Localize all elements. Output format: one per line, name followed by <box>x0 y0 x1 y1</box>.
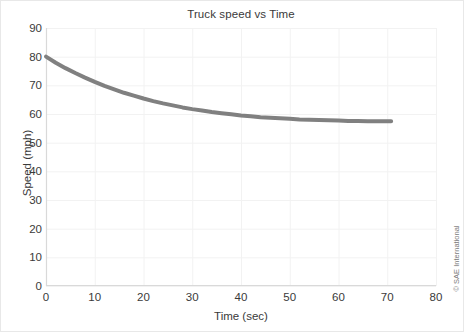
x-tick-label: 0 <box>26 291 66 303</box>
y-tick-label: 70 <box>8 79 42 91</box>
x-tick-label: 10 <box>75 291 115 303</box>
data-series-layer <box>46 28 436 286</box>
x-axis-tick-labels: 01020304050607080 <box>46 291 436 307</box>
y-tick-label: 90 <box>8 22 42 34</box>
x-tick-label: 80 <box>416 291 456 303</box>
chart-figure: Truck speed vs Time 0102030405060708090 … <box>0 0 464 332</box>
x-tick-label: 60 <box>319 291 359 303</box>
x-axis-title: Time (sec) <box>46 310 436 322</box>
x-tick-label: 50 <box>270 291 310 303</box>
y-axis-title: Speed (mph) <box>21 93 33 233</box>
x-tick-label: 70 <box>367 291 407 303</box>
y-tick-label: 80 <box>8 51 42 63</box>
x-tick-label: 20 <box>124 291 164 303</box>
plot-area <box>46 28 436 286</box>
x-tick-label: 40 <box>221 291 261 303</box>
y-tick-label: 10 <box>8 251 42 263</box>
data-line-0 <box>46 57 391 122</box>
copyright-credit: © SAE International <box>452 189 461 329</box>
x-tick-label: 30 <box>172 291 212 303</box>
chart-title: Truck speed vs Time <box>41 8 441 20</box>
